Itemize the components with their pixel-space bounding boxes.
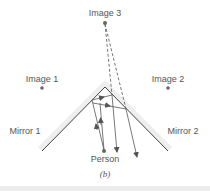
image-3-dot <box>103 21 107 25</box>
mirror-1-line <box>42 87 105 151</box>
person-label: Person <box>91 154 120 164</box>
figure-caption: (b) <box>100 169 111 179</box>
mirror-2-label: Mirror 2 <box>168 126 199 136</box>
mirror-diagram: Image 3 Image 1 Image 2 Mirror 1 Mirror … <box>0 0 210 191</box>
image-1-label: Image 1 <box>26 74 59 84</box>
image-2-label: Image 2 <box>152 74 185 84</box>
mirror-1-label: Mirror 1 <box>10 126 41 136</box>
ray-1-reflected <box>112 95 117 152</box>
bottom-band <box>0 186 210 191</box>
image-2-dot <box>166 86 170 90</box>
image-3-label: Image 3 <box>89 8 122 18</box>
person-dot <box>102 149 106 153</box>
image-1-dot <box>40 86 44 90</box>
mirror-shading <box>38 80 172 151</box>
